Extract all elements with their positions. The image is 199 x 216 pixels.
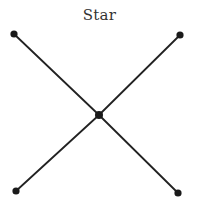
star-topology-diagram: Star: [0, 0, 199, 216]
node-center: [95, 111, 103, 119]
node-top-right: [176, 31, 183, 38]
edge-top-left-center: [14, 34, 99, 115]
node-bottom-right: [174, 189, 181, 196]
topology-graphic: [0, 0, 199, 216]
edge-center-bottom-left: [16, 115, 99, 191]
node-top-left: [10, 30, 17, 37]
node-bottom-left: [12, 187, 19, 194]
edge-top-right-center: [99, 35, 180, 115]
edge-center-bottom-right: [99, 115, 178, 193]
